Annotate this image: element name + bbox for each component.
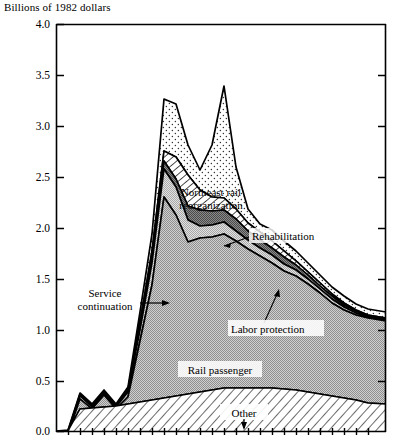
annotation-labor-protection: Labor protection: [231, 323, 305, 335]
annotation-service-continuation-line2: continuation: [78, 300, 133, 312]
y-tick-label: 1.5: [36, 273, 51, 285]
annotation-service-continuation-line1: Service: [89, 287, 122, 299]
y-axis-ticks: [57, 25, 64, 432]
y-tick-label: 0.0: [36, 425, 51, 436]
y-axis-tick-labels: 4.0 3.5 3.0 2.5 2.0 1.5 1.0 0.5 0.0: [36, 18, 51, 436]
series-bands: [56, 86, 386, 435]
annotation-rail-passenger: Rail passenger: [188, 364, 253, 376]
annotation-northeast-rail-reorganization-line1: Northeast rail: [181, 186, 241, 198]
annotation-rehabilitation: Rehabilitation: [252, 230, 315, 242]
y-tick-label: 4.0: [36, 18, 51, 30]
y-tick-label: 3.5: [36, 69, 51, 81]
stacked-area-chart: Billions of 1982 dollars: [0, 0, 394, 436]
y-tick-label: 0.5: [36, 375, 51, 387]
y-tick-label: 2.5: [36, 171, 51, 183]
y-tick-label: 3.0: [36, 120, 51, 132]
chart-plot-area: 4.0 3.5 3.0 2.5 2.0 1.5 1.0 0.5 0.0 Nort…: [0, 0, 394, 436]
annotation-northeast-rail-reorganization-line2: reorganization: [179, 199, 243, 211]
annotation-other: Other: [231, 407, 256, 419]
y-tick-label: 2.0: [36, 222, 51, 234]
y-tick-label: 1.0: [36, 324, 51, 336]
